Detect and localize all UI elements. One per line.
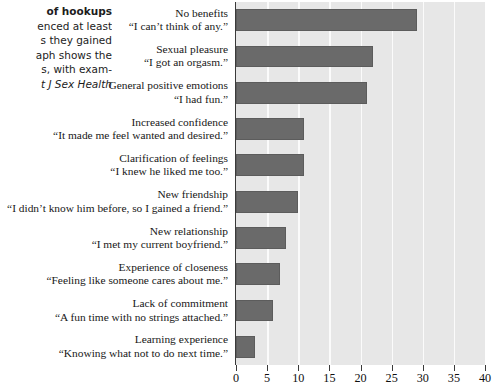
category-name-1: Sexual pleasure [0,43,228,56]
category-name-8: Lack of commitment [0,297,228,310]
x-tick-label-40: 40 [479,371,491,386]
category-label-0: No benefits“I can’t think of any.” [0,7,228,34]
category-quote-0: “I can’t think of any.” [0,20,228,33]
x-tick-label-5: 5 [264,371,270,386]
x-tick-label-10: 10 [292,371,304,386]
category-label-3: Increased confidence“It made me feel wan… [0,116,228,143]
gridline-30 [423,2,425,365]
category-name-2: General positive emotions [0,79,228,92]
x-tick-label-25: 25 [386,371,398,386]
category-name-3: Increased confidence [0,116,228,129]
category-label-7: Experience of closeness“Feeling like som… [0,261,228,288]
bar-6 [236,227,286,249]
category-label-4: Clarification of feelings“I knew he like… [0,152,228,179]
category-name-0: No benefits [0,7,228,20]
category-label-2: General positive emotions“I had fun.” [0,79,228,106]
bar-3 [236,118,304,140]
bar-2 [236,82,367,104]
plot-area [236,2,485,365]
category-name-7: Experience of closeness [0,261,228,274]
category-quote-7: “Feeling like someone cares about me.” [0,274,228,287]
category-quote-3: “It made me feel wanted and desired.” [0,129,228,142]
x-tick-label-35: 35 [448,371,460,386]
category-quote-8: “A fun time with no strings attached.” [0,311,228,324]
category-quote-6: “I met my current boyfriend.” [0,238,228,251]
category-name-4: Clarification of feelings [0,152,228,165]
gridline-35 [454,2,456,365]
category-label-1: Sexual pleasure“I got an orgasm.” [0,43,228,70]
category-quote-5: “I didn’t know him before, so I gained a… [0,202,228,215]
category-label-5: New friendship“I didn’t know him before,… [0,188,228,215]
chart-area: No benefits“I can’t think of any.”Sexual… [0,0,495,390]
category-name-9: Learning experience [0,333,228,346]
bar-4 [236,154,304,176]
category-quote-2: “I had fun.” [0,93,228,106]
x-tick-label-0: 0 [233,371,239,386]
category-name-5: New friendship [0,188,228,201]
x-tick-label-15: 15 [323,371,335,386]
category-quote-1: “I got an orgasm.” [0,56,228,69]
x-tick-label-20: 20 [354,371,366,386]
gridline-25 [392,2,394,365]
category-quote-9: “Knowing what not to do next time.” [0,347,228,360]
bar-8 [236,300,273,322]
x-tick-label-30: 30 [417,371,429,386]
category-name-6: New relationship [0,225,228,238]
category-label-column: No benefits“I can’t think of any.”Sexual… [0,0,232,365]
bar-9 [236,336,255,358]
category-label-6: New relationship“I met my current boyfri… [0,225,228,252]
x-axis-tick-labels: 0510152025303540 [236,371,485,389]
bar-chart-figure: of hookupsenced at leasts they gainedaph… [0,0,495,390]
category-quote-4: “I knew he liked me too.” [0,165,228,178]
bar-7 [236,263,280,285]
bar-5 [236,191,298,213]
bar-0 [236,9,417,31]
y-axis-spine [235,2,236,365]
category-label-9: Learning experience“Knowing what not to … [0,333,228,360]
bar-1 [236,46,373,68]
category-label-8: Lack of commitment“A fun time with no st… [0,297,228,324]
